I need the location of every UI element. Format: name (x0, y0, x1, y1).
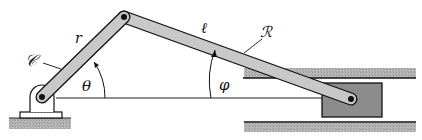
slider-pin (348, 96, 354, 102)
theta-arrowhead (94, 62, 99, 68)
connecting-rod (124, 17, 351, 99)
crank-length-label: r (75, 30, 83, 46)
crank-label-leader (43, 63, 61, 69)
phi-angle-arc (209, 50, 217, 98)
crank-pivot-pin (39, 94, 45, 100)
theta-label: θ (82, 77, 91, 95)
crank-rod-joint-pin (121, 14, 127, 20)
ground-hatch (9, 118, 71, 129)
lower-guide (244, 122, 416, 132)
slider-crank-diagram: 𝒞 r ℓ ℛ θ φ (0, 0, 422, 140)
phi-label: φ (219, 76, 230, 94)
rod-label-leader (244, 39, 262, 53)
base-plate (20, 112, 62, 118)
rod-length-label: ℓ (201, 19, 207, 37)
crank-curve-label: 𝒞 (25, 51, 41, 70)
rod-curve-label: ℛ (260, 23, 273, 41)
theta-angle-arc (94, 62, 105, 98)
